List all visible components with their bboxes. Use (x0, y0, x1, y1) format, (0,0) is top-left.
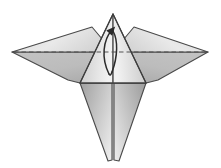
origami-figure-container: Origami folding step diagram (0, 0, 221, 168)
tail-right-flap (114, 83, 146, 161)
tail-left-flap (80, 83, 112, 161)
origami-diagram-svg (0, 0, 221, 168)
tail-group (80, 83, 146, 161)
